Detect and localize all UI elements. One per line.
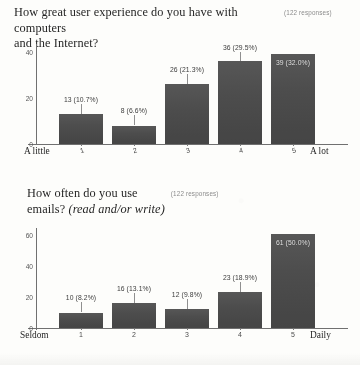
chart-1-bar-1: [59, 114, 103, 144]
question-2-title-line1: How often do you use: [27, 186, 138, 200]
chart-2-bar-label-1: 10 (8.2%): [66, 294, 96, 301]
chart-2-tickmark-1: [81, 328, 82, 330]
chart-2-leader-1: [81, 302, 82, 312]
question-1-response-count: (122 responses): [284, 9, 332, 16]
chart-2-ytick-60: 60: [26, 232, 33, 239]
chart-2-ytick-20: 20: [26, 294, 33, 301]
chart-1-ytick-20: 20: [26, 95, 33, 102]
chart-1: 40 20 0 13 (10.7%) 8 (6.6%) 26 (21.3%) 3…: [14, 44, 350, 162]
chart-1-ytick-40: 40: [26, 49, 33, 56]
chart-1-x-axis: [28, 144, 348, 145]
chart-2-xtick-1: 1: [79, 331, 83, 338]
chart-2-leader-3: [187, 299, 188, 309]
chart-2-bar-3: [165, 309, 209, 328]
question-2-title: How often do you use emails? (read and/o…: [27, 186, 165, 217]
chart-2-bar-label-5: 61 (50.0%): [276, 239, 310, 246]
chart-1-bar-3: [165, 84, 209, 144]
chart-1-axis-end-label: A lot: [310, 146, 329, 156]
chart-1-y-axis: [36, 44, 37, 144]
chart-2-tickmark-3: [187, 328, 188, 330]
chart-2-axis-start-label: Seldom: [20, 330, 49, 340]
chart-1-bar-5: [271, 54, 315, 144]
chart-1-bar-label-3: 26 (21.3%): [170, 66, 204, 73]
question-1-title-line1: How great user experience do you have wi…: [14, 5, 238, 35]
chart-1-leader-3: [187, 74, 188, 84]
chart-1-bar-label-2: 8 (6.6%): [121, 107, 148, 114]
chart-1-bar-2: [112, 126, 156, 144]
chart-2-leader-4: [240, 282, 241, 292]
page-bottom-smudge: [0, 353, 360, 365]
chart-2-xtick-3: 3: [185, 331, 189, 338]
chart-2-leader-2: [134, 293, 135, 303]
chart-2-tickmark-4: [240, 328, 241, 330]
chart-1-leader-1: [81, 104, 82, 114]
chart-1-leader-2: [134, 115, 135, 125]
chart-2-bar-label-3: 12 (9.8%): [172, 291, 202, 298]
chart-2-y-axis: [36, 228, 37, 330]
chart-2-xtick-4: 4: [238, 331, 242, 338]
chart-2-bar-label-2: 16 (13.1%): [117, 285, 151, 292]
chart-2-xtick-2: 2: [132, 331, 136, 338]
question-2-response-count: (122 responses): [171, 190, 219, 197]
chart-2-bar-5: [271, 234, 315, 329]
chart-1-axis-start-label: A little: [24, 146, 50, 156]
question-2-title-line2-plain: emails?: [27, 202, 68, 216]
chart-2-ytick-40: 40: [26, 263, 33, 270]
chart-1-xtick-1: 1: [79, 146, 85, 154]
chart-1-leader-4: [240, 52, 241, 61]
chart-2-tickmark-5: [293, 328, 294, 330]
chart-1-bar-4: [218, 61, 262, 144]
chart-1-xtick-2: 2: [132, 146, 138, 154]
chart-1-xtick-3: 3: [185, 146, 191, 154]
chart-2-xtick-5: 5: [291, 331, 295, 338]
chart-1-xtick-5: 5: [291, 146, 297, 154]
chart-1-bar-label-5: 39 (32.0%): [276, 59, 310, 66]
chart-2-bar-label-4: 23 (18.9%): [223, 274, 257, 281]
chart-2-x-axis: [28, 328, 348, 329]
chart-1-bar-label-1: 13 (10.7%): [64, 96, 98, 103]
chart-2-tickmark-2: [134, 328, 135, 330]
chart-1-xtick-4: 4: [238, 146, 244, 154]
chart-2: 60 40 20 0 10 (8.2%) 16 (13.1%) 12 (9.8%…: [14, 228, 350, 348]
chart-2-axis-end-label: Daily: [310, 330, 331, 340]
question-2-header: How often do you use emails? (read and/o…: [27, 186, 347, 217]
chart-2-bar-2: [112, 303, 156, 328]
chart-1-bar-label-4: 36 (29.5%): [223, 44, 257, 51]
chart-2-bar-4: [218, 292, 262, 328]
question-2-title-line2-italic: (read and/or write): [68, 202, 164, 216]
chart-2-bar-1: [59, 313, 103, 329]
